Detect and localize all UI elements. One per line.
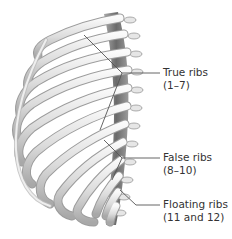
label-floating-ribs-title: Floating ribs [163,198,228,211]
label-true-ribs-range: (1–7) [163,79,208,92]
label-floating-ribs-range: (11 and 12) [163,211,228,224]
label-floating-ribs: Floating ribs (11 and 12) [163,198,228,223]
label-true-ribs: True ribs (1–7) [163,66,208,91]
label-true-ribs-title: True ribs [163,66,208,79]
label-false-ribs-range: (8–10) [163,164,212,177]
label-false-ribs-title: False ribs [163,151,212,164]
label-false-ribs: False ribs (8–10) [163,151,212,176]
